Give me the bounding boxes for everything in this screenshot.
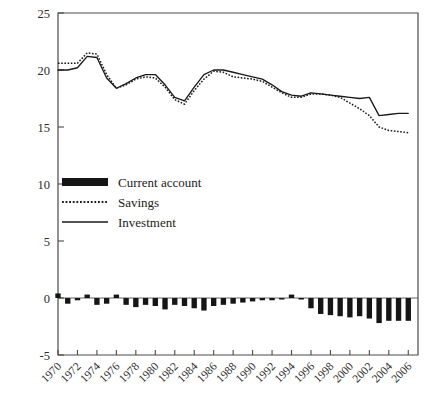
bar-current-account xyxy=(123,298,128,305)
bar-current-account xyxy=(279,298,284,300)
bar-current-account xyxy=(230,298,235,304)
x-axis-tick-label: 2000 xyxy=(331,360,356,385)
bar-current-account xyxy=(94,298,99,305)
bar-current-account xyxy=(269,298,274,300)
bar-current-account xyxy=(240,298,245,303)
x-axis-tick-label: 2004 xyxy=(369,360,394,385)
bar-current-account xyxy=(289,295,294,298)
x-axis-tick-label: 1990 xyxy=(233,360,258,385)
bar-current-account xyxy=(75,298,80,300)
x-axis-tick-label: 1994 xyxy=(272,360,297,385)
chart-legend: Current accountSavingsInvestment xyxy=(62,175,202,230)
bar-current-account xyxy=(211,298,216,306)
bar-current-account xyxy=(172,298,177,305)
bar-current-account xyxy=(396,298,401,321)
x-axis-tick-label: 1984 xyxy=(175,360,200,385)
bar-current-account xyxy=(65,298,70,304)
x-axis-tick-label: 1976 xyxy=(97,360,122,385)
bar-current-account xyxy=(104,298,109,304)
bar-current-account xyxy=(55,293,60,298)
bar-current-account xyxy=(192,298,197,308)
bar-current-account xyxy=(133,298,138,307)
y-axis-tick-label: 25 xyxy=(38,7,51,21)
bar-current-account xyxy=(153,298,158,306)
bar-current-account xyxy=(85,295,90,298)
x-axis-tick-label: 1996 xyxy=(292,360,317,385)
y-axis-tick-label: 20 xyxy=(38,64,51,78)
bar-current-account xyxy=(376,298,381,323)
bar-current-account xyxy=(318,298,323,314)
x-axis-tick-label: 1980 xyxy=(136,360,161,385)
economic-indicators-chart: -505101520251970197219741976197819801982… xyxy=(0,0,430,407)
y-axis-tick-label: 15 xyxy=(38,121,51,135)
x-axis-tick-label: 1998 xyxy=(311,360,336,385)
y-axis-tick-label: -5 xyxy=(40,349,50,363)
x-axis-tick-label: 1972 xyxy=(58,360,83,385)
x-axis-tick-label: 1970 xyxy=(39,360,64,385)
bar-current-account xyxy=(182,298,187,306)
bar-current-account xyxy=(201,298,206,311)
x-axis-tick-label: 2006 xyxy=(389,360,414,385)
bar-current-account xyxy=(386,298,391,321)
bar-current-account xyxy=(221,298,226,305)
x-axis-tick-label: 1988 xyxy=(214,360,239,385)
bar-current-account xyxy=(260,298,265,300)
bar-current-account xyxy=(367,298,372,319)
bar-current-account xyxy=(143,298,148,305)
bar-current-account xyxy=(406,298,411,321)
chart-container: -505101520251970197219741976197819801982… xyxy=(0,0,430,407)
axis-frame xyxy=(58,13,418,355)
x-axis-tick-label: 1974 xyxy=(78,360,103,385)
bar-current-account xyxy=(357,298,362,316)
x-axis-tick-label: 1978 xyxy=(117,360,142,385)
bar-current-account xyxy=(114,295,119,298)
y-axis-tick-label: 5 xyxy=(44,235,50,249)
x-axis-tick-label: 1982 xyxy=(155,360,180,385)
bar-current-account xyxy=(162,298,167,309)
legend-label: Savings xyxy=(118,195,159,210)
bar-current-account xyxy=(250,298,255,301)
x-axis-tick-label: 1992 xyxy=(253,360,278,385)
y-axis-tick-label: 0 xyxy=(44,292,50,306)
savings-line xyxy=(58,53,408,133)
bar-current-account xyxy=(308,298,313,308)
legend-swatch-current-account xyxy=(62,178,108,186)
y-axis-tick-label: 10 xyxy=(38,178,51,192)
x-axis-tick-label: 1986 xyxy=(194,360,219,385)
legend-label: Investment xyxy=(118,215,176,230)
legend-label: Current account xyxy=(118,175,202,190)
bar-current-account xyxy=(328,298,333,315)
bar-current-account xyxy=(347,298,352,317)
bar-current-account xyxy=(337,298,342,316)
bar-current-account xyxy=(299,298,304,300)
x-axis-tick-label: 2002 xyxy=(350,360,375,385)
